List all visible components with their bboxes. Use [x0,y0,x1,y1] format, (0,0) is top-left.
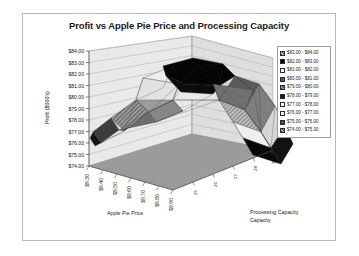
y-tick-label: $81.00 [68,83,84,89]
x-tick-label: $9.40 [98,178,104,191]
z-axis-title-line2: Capacity [250,217,271,223]
y-tick-label: $84.00 [68,48,84,54]
y-axis: $84.00 $83.00 $82.00 $81.00 $80.00 $79.0… [68,48,89,169]
legend-swatch [280,68,285,73]
legend-label: $76.00 - $77.00 [287,111,319,116]
y-axis-title: Profit ($000's) [44,91,50,124]
y-tick-label: $76.00 [68,140,84,146]
legend-swatch [280,77,285,82]
x-tick-label: $9.80 [154,194,160,207]
legend-item[interactable]: $76.00 - $77.00 [280,109,328,118]
legend-item[interactable]: $75.00 - $76.00 [280,118,328,127]
legend-swatch [280,59,285,64]
z-tick-label: 28 [253,165,258,170]
legend-item[interactable]: $80.00 - $81.00 [280,75,328,84]
legend-item[interactable]: $79.00 - $80.00 [280,83,328,92]
legend-swatch [280,128,285,133]
legend-item[interactable]: $77.00 - $78.00 [280,101,328,110]
legend-item[interactable]: $78.00 - $79.00 [280,92,328,101]
y-tick-label: $78.00 [68,117,84,123]
z-tick-label: 27 [233,173,238,178]
y-tick-label: $77.00 [68,129,84,135]
z-axis-title-line1: Processing Capacity [250,209,299,215]
legend-swatch [280,85,285,90]
legend-swatch [280,51,285,56]
legend-label: $79.00 - $80.00 [287,85,319,90]
legend-label: $74.00 - $75.00 [287,128,319,133]
x-tick-label: $9.90 [168,198,174,211]
legend-label: $78.00 - $79.00 [287,94,319,99]
legend-item[interactable]: $81.00 - $82.00 [280,66,328,75]
legend-label: $75.00 - $76.00 [287,120,319,125]
legend-swatch [280,120,285,125]
legend-label: $77.00 - $78.00 [287,103,319,108]
legend-label: $82.00 - $83.00 [287,60,319,65]
legend-item[interactable]: $74.00 - $75.00 [280,126,328,135]
x-tick-label: $9.30 [84,174,90,187]
legend-swatch [280,111,285,116]
y-tick-label: $74.00 [68,163,84,169]
x-tick-label: $9.70 [140,190,146,203]
y-tick-label: $82.00 [68,71,84,77]
legend-item[interactable]: $82.00 - $83.00 [280,58,328,67]
chart-legend[interactable]: $83.00 - $84.00 $82.00 - $83.00 $81.00 -… [277,46,331,138]
legend-label: $80.00 - $81.00 [287,77,319,82]
x-axis-title: Apple Pie Price [107,210,143,216]
y-tick-label: $79.00 [68,106,84,112]
legend-item[interactable]: $83.00 - $84.00 [280,49,328,58]
legend-swatch [280,94,285,99]
y-tick-label: $80.00 [68,94,84,100]
z-tick-label: 25 [193,189,198,194]
legend-label: $81.00 - $82.00 [287,68,319,73]
legend-label: $83.00 - $84.00 [287,51,319,56]
y-tick-label: $83.00 [68,60,84,66]
z-tick-label: 30 [271,158,276,163]
x-tick-label: $9.50 [112,182,118,195]
x-tick-label: $9.60 [126,186,132,199]
legend-swatch [280,102,285,107]
chart-figure: Profit vs Apple Pie Price and Processing… [22,13,336,241]
z-tick-label: 26 [213,181,218,186]
y-tick-label: $75.00 [68,152,84,158]
